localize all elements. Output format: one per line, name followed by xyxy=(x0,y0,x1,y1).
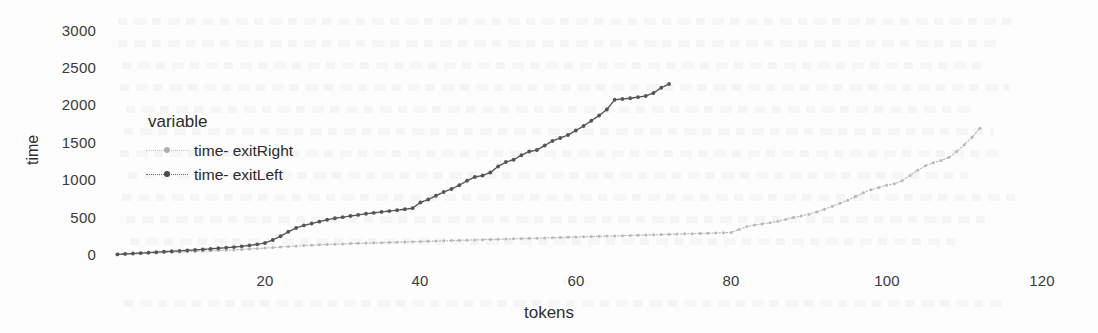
data-point xyxy=(613,234,616,237)
legend-item-exit-left[interactable]: time- exitLeft xyxy=(146,163,293,187)
data-point xyxy=(287,245,290,248)
data-point xyxy=(870,188,873,191)
data-point xyxy=(403,207,407,211)
data-point xyxy=(147,251,151,255)
data-point xyxy=(310,244,313,247)
y-tick-label-500: 500 xyxy=(38,209,96,226)
data-point xyxy=(489,238,492,241)
chart-container: 3000 2500 2000 1500 1000 500 0 20 40 60 … xyxy=(0,0,1098,333)
data-point xyxy=(652,233,655,236)
data-point xyxy=(846,199,849,202)
data-point xyxy=(248,244,252,248)
data-point xyxy=(458,239,461,242)
data-point xyxy=(349,214,353,218)
data-point xyxy=(395,208,399,212)
data-point xyxy=(854,195,857,198)
data-point xyxy=(543,144,547,148)
data-point xyxy=(621,234,624,237)
x-tick-label-100: 100 xyxy=(857,272,917,289)
x-tick-label-120: 120 xyxy=(1012,272,1072,289)
y-tick-label-1500: 1500 xyxy=(38,134,96,151)
data-point xyxy=(706,232,709,235)
data-point xyxy=(295,245,298,248)
legend-item-exit-right[interactable]: time- exitRight xyxy=(146,139,293,163)
data-point xyxy=(714,231,717,234)
data-point xyxy=(629,234,632,237)
y-tick-label-1000: 1000 xyxy=(38,171,96,188)
data-point xyxy=(644,94,648,98)
data-point xyxy=(644,233,647,236)
data-point xyxy=(559,236,562,239)
data-point xyxy=(481,238,484,241)
data-point xyxy=(792,216,795,219)
legend-title: variable xyxy=(146,112,293,132)
data-point xyxy=(434,194,438,198)
data-point xyxy=(668,233,671,236)
data-point xyxy=(574,236,577,239)
data-point xyxy=(590,235,593,238)
data-point xyxy=(520,153,524,157)
data-point xyxy=(730,231,733,234)
data-point xyxy=(551,236,554,239)
data-point xyxy=(512,158,516,162)
data-point xyxy=(683,232,686,235)
legend: variable time- exitRight time- exitLeft xyxy=(146,112,293,187)
data-point xyxy=(589,119,593,123)
data-point xyxy=(201,248,205,252)
data-point xyxy=(652,91,656,95)
x-axis-title: tokens xyxy=(0,303,1098,323)
data-point xyxy=(598,235,601,238)
data-point xyxy=(388,241,391,244)
data-point xyxy=(450,187,454,191)
data-point xyxy=(605,108,609,112)
data-point xyxy=(932,161,935,164)
data-point xyxy=(473,175,477,179)
data-point xyxy=(621,97,625,101)
data-point xyxy=(877,186,880,189)
data-point xyxy=(372,241,375,244)
data-point xyxy=(722,231,725,234)
data-point xyxy=(699,232,702,235)
data-point xyxy=(318,243,321,246)
data-point xyxy=(185,248,189,252)
y-tick-label-2000: 2000 xyxy=(38,96,96,113)
data-point xyxy=(209,247,213,251)
data-point xyxy=(442,239,445,242)
x-tick-label-60: 60 xyxy=(546,272,606,289)
data-point xyxy=(465,179,469,183)
data-point xyxy=(901,179,904,182)
data-point xyxy=(667,82,671,86)
data-point xyxy=(605,235,608,238)
data-point xyxy=(232,245,236,249)
data-point xyxy=(426,198,430,202)
data-point xyxy=(566,133,570,137)
data-point xyxy=(240,244,244,248)
data-point xyxy=(496,165,500,169)
data-point xyxy=(154,250,158,254)
data-point xyxy=(356,213,360,217)
data-point xyxy=(659,86,663,90)
data-point xyxy=(162,250,166,254)
data-point xyxy=(333,243,336,246)
data-point xyxy=(481,174,485,178)
data-point xyxy=(745,225,748,228)
data-point xyxy=(971,136,974,139)
data-point xyxy=(613,98,617,102)
data-point xyxy=(333,216,337,220)
data-point xyxy=(939,159,942,162)
data-point xyxy=(520,237,523,240)
data-point xyxy=(582,124,586,128)
data-point xyxy=(387,209,391,213)
data-point xyxy=(807,213,810,216)
data-point xyxy=(131,252,135,256)
data-point xyxy=(567,236,570,239)
data-point xyxy=(893,182,896,185)
data-point xyxy=(271,246,274,249)
data-point xyxy=(442,190,446,194)
data-point xyxy=(504,238,507,241)
data-point xyxy=(123,252,127,256)
y-tick-label-0: 0 xyxy=(38,246,96,263)
data-point xyxy=(947,156,950,159)
data-point xyxy=(364,212,368,216)
data-point xyxy=(691,232,694,235)
